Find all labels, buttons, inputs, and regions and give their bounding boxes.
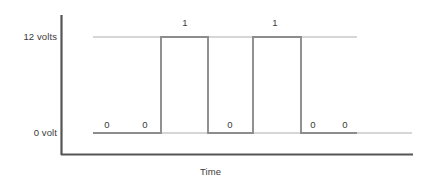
y-tick-label-12-volts: 12 volts bbox=[23, 31, 57, 42]
y-tick-label-0-volt: 0 volt bbox=[34, 127, 57, 138]
bit-label-0-second: 0 bbox=[135, 119, 155, 130]
bit-label-0-third: 0 bbox=[220, 119, 240, 130]
x-axis-title: Time bbox=[0, 166, 421, 177]
bit-label-1-first: 1 bbox=[175, 17, 195, 28]
bit-label-1-second: 1 bbox=[265, 17, 285, 28]
bit-label-0-first: 0 bbox=[97, 119, 117, 130]
digital-signal-diagram: 12 volts 0 volt Time 0 0 1 0 1 0 0 bbox=[0, 0, 421, 187]
bit-label-0-fifth: 0 bbox=[335, 119, 355, 130]
waveform-plot bbox=[0, 0, 421, 187]
bit-label-0-fourth: 0 bbox=[303, 119, 323, 130]
